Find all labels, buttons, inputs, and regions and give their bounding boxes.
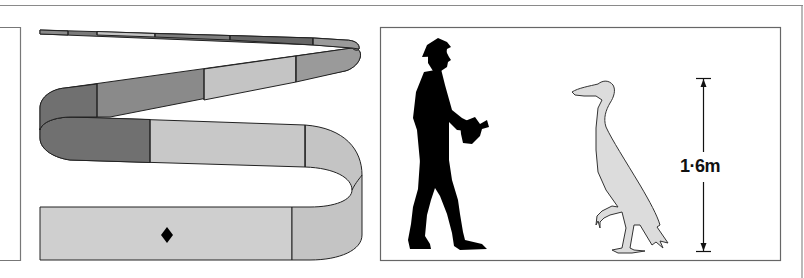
ribbon-diagram [40, 30, 362, 260]
ribbon-third-band-dark [40, 117, 150, 163]
height-label: 1·6m [680, 156, 720, 177]
bird-silhouette-icon [572, 81, 668, 253]
ribbon-middle-right [296, 48, 361, 82]
ribbon-middle-light [204, 56, 296, 100]
left-edge-panel [0, 28, 21, 261]
man-silhouette-icon [408, 38, 489, 250]
figure-canvas [0, 0, 804, 278]
